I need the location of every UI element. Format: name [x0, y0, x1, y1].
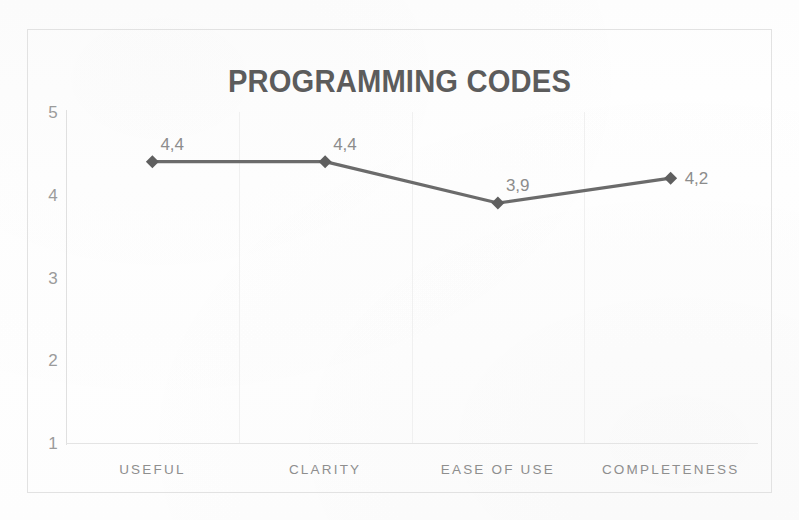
data-point-marker: [491, 197, 504, 210]
data-point-marker: [319, 155, 332, 168]
series-line-path: [152, 162, 670, 203]
x-axis-label-clarity: CLARITY: [289, 462, 361, 477]
data-point-marker: [664, 172, 677, 185]
data-label-completeness: 4,2: [685, 170, 709, 187]
y-axis-tick-3: 3: [28, 269, 58, 286]
data-label-ease-of-use: 3,9: [506, 177, 530, 194]
data-label-useful: 4,4: [160, 136, 184, 153]
x-axis-label-useful: USEFUL: [119, 462, 185, 477]
y-axis-tick-5: 5: [28, 104, 58, 121]
x-axis-label-ease-of-use: EASE OF USE: [441, 462, 555, 477]
x-axis-category-labels: USEFULCLARITYEASE OF USECOMPLETENESS: [66, 462, 757, 486]
data-point-marker: [146, 155, 159, 168]
y-axis-tick-labels: 54321: [22, 0, 58, 520]
y-axis-tick-2: 2: [28, 352, 58, 369]
y-axis-tick-1: 1: [28, 435, 58, 452]
y-axis-tick-4: 4: [28, 186, 58, 203]
x-axis-line: [66, 443, 758, 444]
plot-area: 4,44,43,94,2: [66, 112, 757, 443]
line-series: [66, 112, 757, 443]
chart-title: PROGRAMMING CODES: [24, 64, 775, 100]
data-label-clarity: 4,4: [333, 136, 357, 153]
x-axis-label-completeness: COMPLETENESS: [602, 462, 739, 477]
